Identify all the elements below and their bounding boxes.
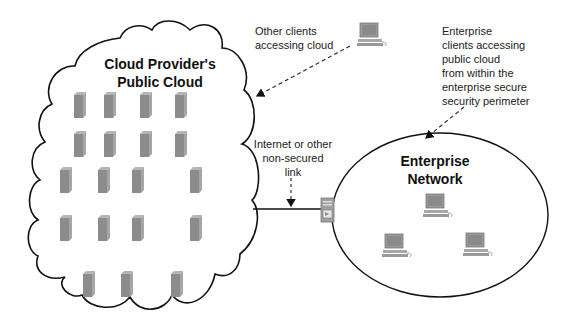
link-label-line3: link (248, 165, 338, 179)
external-client-computer-icon (356, 22, 390, 48)
server-rack-icon (132, 215, 144, 241)
other-clients-line2: accessing cloud (255, 38, 333, 52)
other-clients-arrow (257, 46, 350, 96)
server-rack-icon (175, 131, 187, 157)
enterprise-clients-line3: public cloud (442, 52, 529, 66)
server-rack-icon (104, 92, 116, 118)
cloud-title-line2: Public Cloud (100, 73, 220, 91)
server-rack-icon (74, 92, 86, 118)
cloud-title-line1: Cloud Provider's (100, 55, 220, 73)
enterprise-computer-icon (381, 233, 415, 259)
server-rack-icon (104, 131, 116, 157)
server-rack-icon (175, 92, 187, 118)
enterprise-clients-line5: enterprise secure (442, 80, 529, 94)
server-rack-icon (140, 131, 152, 157)
server-rack-icon (121, 271, 133, 297)
enterprise-title-line1: Enterprise (375, 152, 495, 170)
server-rack-icon (171, 271, 183, 297)
server-rack-icon (190, 215, 202, 241)
enterprise-computer-icon (422, 193, 456, 219)
firewall-gateway-icon (320, 196, 336, 224)
server-rack-icon (74, 131, 86, 157)
server-rack-icon (140, 92, 152, 118)
other-clients-line1: Other clients (255, 24, 333, 38)
server-rack-icon (60, 167, 72, 193)
link-label-line1: Internet or other (248, 137, 338, 151)
other-clients-label: Other clients accessing cloud (255, 24, 333, 52)
server-rack-icon (60, 215, 72, 241)
enterprise-clients-line2: clients accessing (442, 38, 529, 52)
enterprise-computer-icon (462, 232, 496, 258)
enterprise-clients-line1: Enterprise (442, 24, 529, 38)
server-rack-icon (190, 167, 202, 193)
enterprise-clients-line4: from within the (442, 66, 529, 80)
enterprise-title-line2: Network (375, 170, 495, 188)
enterprise-clients-label: Enterprise clients accessing public clou… (442, 24, 529, 108)
enterprise-clients-line6: security perimeter (442, 94, 529, 108)
server-rack-icon (98, 215, 110, 241)
server-rack-icon (98, 167, 110, 193)
link-label-line2: non-secured (248, 151, 338, 165)
enterprise-title: Enterprise Network (375, 152, 495, 188)
server-rack-icon (132, 167, 144, 193)
cloud-title: Cloud Provider's Public Cloud (100, 55, 220, 91)
server-rack-icon (83, 271, 95, 297)
link-label: Internet or other non-secured link (248, 137, 338, 179)
